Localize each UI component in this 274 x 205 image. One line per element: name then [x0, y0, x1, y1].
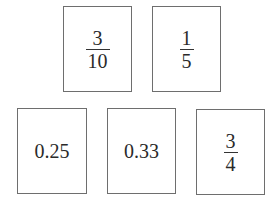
- card-1-5[interactable]: 1 5: [152, 6, 221, 92]
- denominator: 5: [180, 50, 194, 71]
- numerator: 3: [224, 131, 238, 152]
- card-0-33[interactable]: 0.33: [107, 108, 176, 194]
- card-0-25[interactable]: 0.25: [17, 108, 87, 194]
- fraction: 1 5: [180, 28, 194, 71]
- decimal-value: 0.25: [35, 140, 70, 163]
- numerator: 3: [91, 28, 105, 49]
- fraction: 3 4: [224, 131, 238, 174]
- numerator: 1: [180, 28, 194, 49]
- denominator: 10: [86, 50, 110, 71]
- card-3-10[interactable]: 3 10: [63, 6, 132, 92]
- denominator: 4: [224, 153, 238, 174]
- fraction: 3 10: [86, 28, 110, 71]
- card-3-4[interactable]: 3 4: [196, 109, 265, 195]
- decimal-value: 0.33: [124, 140, 159, 163]
